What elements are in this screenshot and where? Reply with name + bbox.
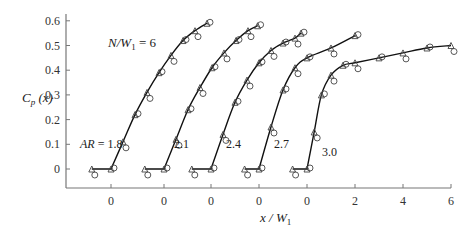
chart-area: 0.60.50.40.30.20.1000000246 Cp (x)x / W1… bbox=[0, 0, 467, 232]
x-tick-label: 0 bbox=[161, 194, 167, 208]
circle-marker bbox=[295, 41, 301, 47]
y-tick-label: 0.6 bbox=[45, 14, 60, 28]
label-ar-2-7: 2.7 bbox=[274, 137, 289, 151]
circle-marker bbox=[331, 78, 337, 84]
y-tick-label: 0.2 bbox=[45, 113, 60, 127]
circle-marker bbox=[224, 56, 230, 62]
y-tick-label: 0 bbox=[54, 162, 60, 176]
circle-marker bbox=[192, 172, 198, 178]
circle-marker bbox=[293, 172, 299, 178]
label-ar-3-0: 3.0 bbox=[322, 145, 337, 159]
label-ar-2-1: 2.1 bbox=[174, 137, 189, 151]
circle-marker bbox=[403, 56, 409, 62]
x-tick-label: 4 bbox=[400, 194, 406, 208]
curve-ar-3.0 bbox=[293, 46, 451, 170]
x-tick-label: 0 bbox=[108, 194, 114, 208]
x-tick-label: 0 bbox=[208, 194, 214, 208]
circle-marker bbox=[355, 66, 361, 72]
annotation-n-w1: N/W1 = 6 bbox=[107, 35, 156, 52]
circle-marker bbox=[271, 53, 277, 59]
circle-marker bbox=[145, 172, 151, 178]
circle-marker bbox=[271, 130, 277, 136]
circle-marker bbox=[195, 34, 201, 40]
y-axis-title: Cp (x) bbox=[22, 90, 53, 107]
y-tick-label: 0.1 bbox=[45, 137, 60, 151]
circle-marker bbox=[247, 83, 253, 89]
y-tick-label: 0.5 bbox=[45, 39, 60, 53]
x-tick-label: 6 bbox=[448, 194, 454, 208]
label-ar-2-4: 2.4 bbox=[226, 137, 241, 151]
x-tick-label: 2 bbox=[352, 194, 358, 208]
x-axis-title: x / W1 bbox=[259, 210, 291, 227]
label-ar-1-8: AR = 1.8 bbox=[79, 137, 122, 151]
circle-marker bbox=[123, 145, 129, 151]
circle-marker bbox=[245, 172, 251, 178]
circle-marker bbox=[331, 51, 337, 57]
circle-marker bbox=[92, 172, 98, 178]
circle-marker bbox=[200, 90, 206, 96]
circle-marker bbox=[295, 71, 301, 77]
circle-marker bbox=[314, 135, 320, 141]
circle-marker bbox=[451, 49, 457, 55]
circle-marker bbox=[171, 58, 177, 64]
x-tick-label: 0 bbox=[256, 194, 262, 208]
circle-marker bbox=[147, 95, 153, 101]
circle-marker bbox=[248, 34, 254, 40]
y-tick-label: 0.4 bbox=[45, 63, 60, 77]
x-tick-label: 0 bbox=[304, 194, 310, 208]
curve-ar-2.7 bbox=[245, 36, 355, 169]
axes: 0.60.50.40.30.20.1000000246 bbox=[45, 14, 454, 208]
